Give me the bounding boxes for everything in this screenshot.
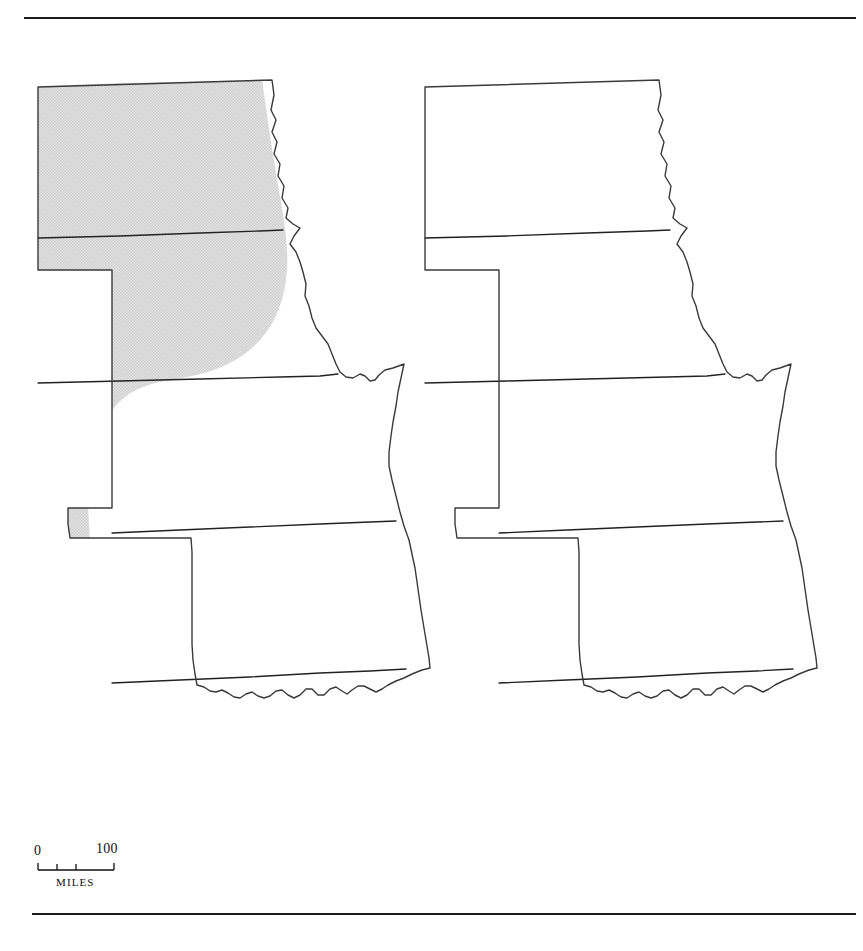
scale-bar: 0 100 MILES [28, 840, 158, 892]
scale-units-label: MILES [56, 876, 95, 888]
figure-root: 0 100 MILES [0, 0, 863, 951]
scale-min-label: 0 [34, 844, 41, 858]
bottom-horizontal-rule [32, 913, 856, 915]
maps-canvas [0, 40, 863, 840]
scale-max-label: 100 [96, 842, 118, 856]
map-right [418, 80, 817, 720]
top-horizontal-rule [24, 17, 856, 19]
map-left [28, 78, 430, 698]
map-right-base [425, 80, 817, 698]
